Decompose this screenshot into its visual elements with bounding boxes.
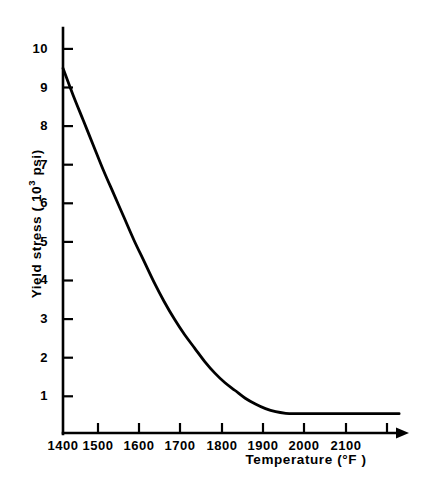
x-tick-label-1700: 1700	[157, 438, 203, 453]
y-tick-label-1: 1	[22, 388, 48, 403]
x-tick-label-2100: 2100	[323, 438, 369, 453]
x-tick-label-1600: 1600	[116, 438, 162, 453]
x-tick-label-1500: 1500	[75, 438, 121, 453]
x-tick-label-1900: 1900	[240, 438, 286, 453]
y-axis-title: Yield stress ( 103 psi)	[26, 104, 44, 344]
y-tick-label-2: 2	[22, 350, 48, 365]
y-axis-title-exponent: 3	[26, 180, 37, 186]
y-axis-title-prefix: Yield stress ( 10	[29, 186, 44, 299]
y-tick-label-10: 10	[22, 41, 48, 56]
y-axis-title-suffix: psi)	[29, 149, 44, 180]
x-axis-arrow-icon	[396, 428, 409, 439]
x-axis-ticks	[98, 423, 387, 433]
x-tick-label-2000: 2000	[281, 438, 327, 453]
x-axis-title: Temperature (°F )	[196, 452, 416, 467]
y-tick-label-9: 9	[22, 80, 48, 95]
x-tick-label-1800: 1800	[199, 438, 245, 453]
data-series-line	[63, 68, 399, 413]
chart-plot-area	[0, 0, 428, 488]
chart-figure: 10 9 8 7 6 5 4 3 2 1 1400 1500 1600 1700…	[0, 0, 428, 488]
y-axis-ticks	[63, 49, 73, 396]
